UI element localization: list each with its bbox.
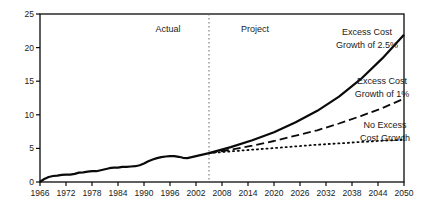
actual-label: Actual — [155, 24, 180, 34]
chart-canvas: 0510152025196619721978198419901996200220… — [0, 0, 434, 212]
x-tick-label: 1984 — [109, 188, 128, 198]
x-tick-label: 2008 — [213, 188, 232, 198]
x-tick-label: 2026 — [291, 188, 310, 198]
y-tick-label: 20 — [25, 43, 35, 53]
x-tick-label: 2014 — [239, 188, 258, 198]
x-tick-label: 2032 — [317, 188, 336, 198]
series-actual — [40, 153, 209, 182]
x-tick-label: 2002 — [187, 188, 206, 198]
x-tick-label: 2038 — [343, 188, 362, 198]
x-tick-label: 1996 — [161, 188, 180, 198]
line-chart: 0510152025196619721978198419901996200220… — [0, 0, 434, 212]
x-tick-label: 2050 — [395, 188, 414, 198]
y-tick-label: 10 — [25, 110, 35, 120]
x-tick-label: 1978 — [83, 188, 102, 198]
x-tick-label: 2020 — [265, 188, 284, 198]
x-tick-label: 2044 — [369, 188, 388, 198]
no-excess-label: No ExcessCost Growth — [360, 120, 410, 143]
y-tick-label: 5 — [29, 143, 34, 153]
y-tick-label: 25 — [25, 9, 35, 19]
x-tick-label: 1972 — [57, 188, 76, 198]
excess-2-5-label: Excess CostGrowth of 2.5% — [336, 27, 398, 50]
excess-1-label: Excess CostGrowth of 1% — [355, 76, 410, 99]
x-tick-label: 1966 — [31, 188, 50, 198]
project-label: Project — [241, 24, 270, 34]
y-tick-label: 15 — [25, 76, 35, 86]
x-tick-label: 1990 — [135, 188, 154, 198]
y-tick-label: 0 — [29, 177, 34, 187]
